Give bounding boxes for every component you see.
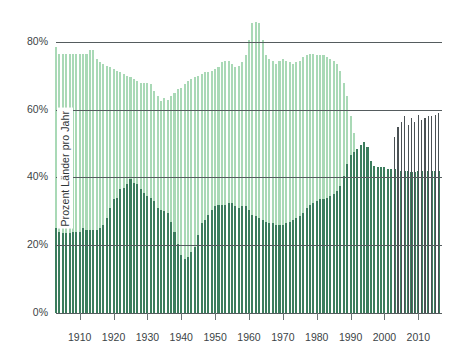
chart-container: 0%20%40%60%80%19101920193019401950196019… [0,0,458,356]
x-tick-label: 2000 [373,331,396,343]
x-tick-label: 1930 [136,331,159,343]
bar-dark [190,252,192,313]
bar-dark [177,244,179,313]
bar-dark [58,232,60,313]
bar-outline [431,116,432,313]
y-tick-label: 20% [4,238,48,250]
bar-dark [194,247,196,313]
bar-dark [295,218,297,313]
bar-dark [363,142,365,313]
bar-dark [89,230,91,313]
bar-dark [153,201,155,313]
bar-outline [394,137,395,313]
bar-dark [248,210,250,313]
bar-dark [102,225,104,313]
bar-outline [404,116,405,313]
x-tick [317,313,318,320]
bar-dark [373,166,375,313]
bar-outline [408,125,409,313]
bar-dark [251,215,253,313]
bar-dark [207,215,209,313]
x-tick [351,313,352,320]
bar-dark [224,205,226,313]
bar-dark [184,259,186,313]
bar-dark [204,220,206,313]
bar-dark [201,223,203,313]
x-tick [147,313,148,320]
bar-dark [231,203,233,313]
gridline [56,110,442,111]
bar-dark [146,196,148,313]
bar-dark [99,228,101,313]
bar-dark [109,208,111,313]
x-tick [283,313,284,320]
bar-dark [390,169,392,313]
bar-dark [265,222,267,314]
x-tick-label: 1970 [271,331,294,343]
bar-dark [133,183,135,313]
bar-dark [140,189,142,313]
bar-dark [366,147,368,313]
bar-dark [79,232,81,313]
bar-dark [113,199,115,313]
gridline [56,42,442,43]
bar-dark [170,222,172,314]
bar-dark [228,203,230,313]
bar-dark [322,199,324,313]
bar-dark [75,232,77,313]
x-tick-label: 1910 [68,331,91,343]
bar-dark [245,206,247,313]
bar-dark [180,255,182,313]
bar-dark [326,198,328,313]
x-tick-label: 2010 [407,331,430,343]
gridline [56,177,442,178]
bar-dark [96,230,98,313]
bar-dark [92,230,94,313]
bar-dark [302,213,304,313]
bar-dark [173,232,175,313]
bar-dark [346,164,348,313]
bar-dark [234,206,236,313]
bar-outline [411,118,412,313]
bar-dark [319,199,321,313]
bar-dark [197,235,199,313]
x-tick-label: 1920 [102,331,125,343]
bar-dark [241,206,243,313]
bar-outline [401,122,402,313]
y-tick-label: 0% [4,306,48,318]
bar-dark [211,210,213,313]
x-tick [215,313,216,320]
bar-dark [339,186,341,313]
x-tick [418,313,419,320]
bar-dark [356,149,358,313]
y-tick-label: 80% [4,35,48,47]
bar-dark [353,152,355,313]
plot-area [56,8,442,313]
bar-dark [238,208,240,313]
y-tick-label: 40% [4,170,48,182]
bar-dark [167,213,169,313]
bar-dark [106,218,108,313]
bar-outline [418,115,419,313]
bar-dark [136,184,138,313]
bar-dark [336,191,338,313]
x-tick [249,313,250,320]
bar-dark [316,201,318,313]
bar-dark [306,208,308,313]
gridline [56,245,442,246]
bar-dark [187,257,189,313]
bar-dark [85,230,87,313]
bar-dark [123,188,125,313]
bar-dark [380,167,382,313]
bar-dark [292,220,294,313]
bar-dark [116,198,118,313]
bar-outline [435,115,436,313]
bar-dark [119,189,121,313]
bar-dark [387,169,389,313]
x-tick [114,313,115,320]
bar-outline [438,113,439,313]
bar-dark [72,232,74,313]
bar-dark [262,220,264,313]
bar-dark [258,218,260,313]
x-tick-label: 1940 [170,331,193,343]
